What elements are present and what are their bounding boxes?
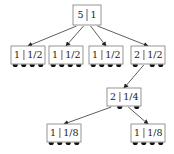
edge-inner-e-to-leaf-f	[64, 107, 111, 124]
tree-diagram: 5111/211/211/221/221/411/811/8	[0, 0, 174, 154]
node-right-value: 1/2	[147, 49, 162, 60]
tree-node-leaf-b: 11/2	[49, 46, 83, 67]
node-left-value: 1	[52, 49, 58, 60]
null-pointer-dot-icon	[108, 65, 113, 68]
null-pointer-dot-icon	[21, 65, 26, 68]
edge-inner-e-to-leaf-g	[128, 107, 148, 124]
null-pointer-dot-icon	[13, 65, 18, 68]
node-left-value: 1	[92, 49, 98, 60]
null-pointer-dot-icon	[158, 143, 163, 146]
null-pointer-dot-icon	[76, 65, 81, 68]
node-right-value: 1/8	[63, 127, 78, 138]
node-left-value: 2	[110, 91, 116, 102]
null-pointer-dot-icon	[133, 65, 138, 68]
null-pointer-dot-icon	[30, 65, 35, 68]
edge-inner-d-to-inner-e	[124, 65, 144, 88]
tree-node-inner-e: 21/4	[107, 88, 141, 109]
edge-root-to-inner-d	[98, 26, 149, 46]
null-pointer-dot-icon	[49, 143, 54, 146]
null-pointer-dot-icon	[133, 143, 138, 146]
node-right-value: 1	[90, 9, 96, 20]
null-pointer-dot-icon	[150, 143, 155, 146]
node-left-value: 1	[134, 127, 140, 138]
null-pointer-dot-icon	[38, 65, 43, 68]
node-left-value: 1	[50, 127, 56, 138]
null-pointer-dot-icon	[74, 143, 79, 146]
tree-node-root: 51	[73, 5, 101, 25]
node-left-value: 5	[78, 9, 84, 20]
tree-node-inner-d: 21/2	[131, 46, 165, 67]
edge-root-to-leaf-c	[91, 26, 107, 46]
null-pointer-dot-icon	[59, 65, 64, 68]
null-pointer-dot-icon	[99, 65, 104, 68]
node-right-value: 1/2	[27, 49, 42, 60]
node-right-value: 1/2	[105, 49, 120, 60]
null-pointer-dot-icon	[150, 65, 155, 68]
nodes: 5111/211/211/221/221/411/811/8	[11, 5, 165, 145]
null-pointer-dot-icon	[116, 65, 121, 68]
tree-node-leaf-f: 11/8	[47, 124, 81, 145]
null-pointer-dot-icon	[57, 143, 62, 146]
node-right-value: 1/2	[65, 49, 80, 60]
node-left-value: 1	[14, 49, 20, 60]
null-pointer-dot-icon	[117, 107, 122, 110]
null-pointer-dot-icon	[141, 143, 146, 146]
tree-node-leaf-c: 11/2	[89, 46, 123, 67]
null-pointer-dot-icon	[68, 65, 73, 68]
tree-node-leaf-a: 11/2	[11, 46, 45, 67]
null-pointer-dot-icon	[134, 107, 139, 110]
null-pointer-dot-icon	[158, 65, 163, 68]
tree-node-leaf-g: 11/8	[131, 124, 165, 145]
node-right-value: 1/8	[147, 127, 162, 138]
edge-root-to-leaf-a	[28, 26, 77, 46]
null-pointer-dot-icon	[66, 143, 71, 146]
null-pointer-dot-icon	[91, 65, 96, 68]
null-pointer-dot-icon	[51, 65, 56, 68]
edges	[28, 26, 148, 124]
node-left-value: 2	[134, 49, 140, 60]
node-right-value: 1/4	[123, 91, 138, 102]
